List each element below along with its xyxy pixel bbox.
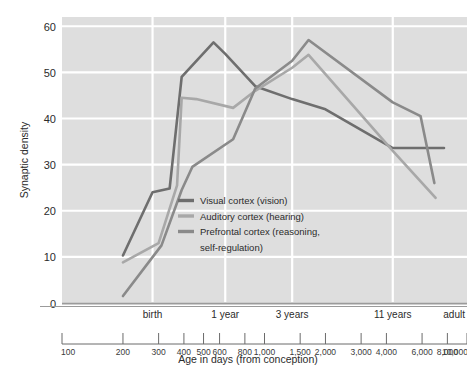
category-label: birth <box>143 309 162 320</box>
y-tick-label: 30 <box>44 159 56 171</box>
x-axis-title: Age in days (from conception) <box>178 353 317 365</box>
scale-tick-label: 100 <box>61 347 75 357</box>
plot-area-background <box>62 17 467 302</box>
y-tick-label: 20 <box>44 205 56 217</box>
scale-tick-label: 10,000 <box>442 347 467 357</box>
category-label: 11 years <box>374 309 412 320</box>
scale-tick-label: 3,000 <box>350 347 372 357</box>
y-tick-label: 0 <box>50 298 56 310</box>
scale-tick-label: 4,000 <box>376 347 398 357</box>
category-label: adult <box>443 309 465 320</box>
category-label: 1 year <box>211 309 239 320</box>
y-tick-label: 40 <box>44 113 56 125</box>
scale-tick-label: 300 <box>152 347 166 357</box>
legend-label: self-regulation) <box>200 242 263 253</box>
legend-label: Visual cortex (vision) <box>200 195 287 206</box>
y-axis-title: Synaptic density <box>18 121 30 198</box>
y-tick-label: 60 <box>44 21 56 33</box>
scale-tick-label: 200 <box>116 347 130 357</box>
chart-canvas: 0102030405060 birth1 year3 years11 years… <box>0 0 467 369</box>
category-label: 3 years <box>276 309 309 320</box>
y-tick-label: 10 <box>44 251 56 263</box>
scale-tick-label: 2,000 <box>315 347 337 357</box>
synaptic-density-chart: 0102030405060 birth1 year3 years11 years… <box>0 0 467 369</box>
scale-tick-label: 6,000 <box>411 347 433 357</box>
y-tick-label: 50 <box>44 67 56 79</box>
legend-label: Prefrontal cortex (reasoning, <box>200 226 320 237</box>
legend-label: Auditory cortex (hearing) <box>200 211 304 222</box>
